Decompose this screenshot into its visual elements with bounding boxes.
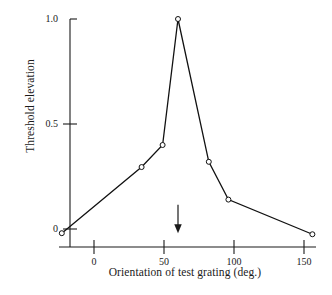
data-point-marker xyxy=(160,143,165,148)
data-point-marker xyxy=(226,197,231,202)
y-axis-title: Threshold elevation xyxy=(24,6,36,206)
x-axis-title: Orientation of test grating (deg.) xyxy=(60,266,310,278)
chart-plot-area xyxy=(0,0,332,295)
data-series-layer xyxy=(59,17,315,237)
data-point-marker xyxy=(176,17,181,22)
figure-canvas: 1.0 0.5 0 0 50 100 150 Threshold elevati… xyxy=(0,0,332,295)
data-point-marker xyxy=(206,159,211,164)
y-tick-label-3: 0 xyxy=(10,224,58,234)
data-point-marker xyxy=(59,231,64,236)
annotation-layer xyxy=(174,205,182,233)
data-point-marker xyxy=(139,165,144,170)
data-point-marker xyxy=(310,232,315,237)
data-line xyxy=(62,19,313,234)
arrow-head-icon xyxy=(174,224,182,233)
